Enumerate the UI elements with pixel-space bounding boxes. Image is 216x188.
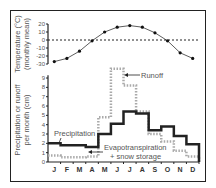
runoff-arrow-head <box>124 73 128 77</box>
temp-point <box>179 51 182 54</box>
temp-point <box>78 50 81 53</box>
precip-tick-label: 5 <box>42 112 46 118</box>
temp-point <box>103 30 106 33</box>
temp-point <box>90 39 93 42</box>
evapotranspiration-annotation: Evapotranspiration <box>104 143 167 152</box>
temp-axis-label-2: (monthly mean) <box>22 17 31 70</box>
month-label: D <box>190 166 195 173</box>
evapotranspiration-arrow-head <box>88 150 92 154</box>
runoff-annotation: Runoff <box>141 71 164 80</box>
precip-tick-label: 7 <box>42 94 46 100</box>
climate-runoff-chart: 20100-10-20-30 0123456789 JFMAMJJASOND T… <box>0 0 216 188</box>
month-label: N <box>178 166 183 173</box>
month-label: F <box>65 166 70 173</box>
temp-axis-label-1: Temperature (°C) <box>13 15 22 73</box>
precip-tick-label: 8 <box>42 84 46 90</box>
temp-point <box>153 31 156 34</box>
temp-point <box>166 39 169 42</box>
month-label: M <box>102 166 108 173</box>
month-label: J <box>128 166 132 173</box>
precip-tick-label: 6 <box>42 103 46 109</box>
temp-point <box>128 24 131 27</box>
month-label: M <box>77 166 83 173</box>
month-label: J <box>115 166 119 173</box>
precip-tick-label: 9 <box>42 75 46 81</box>
month-label: A <box>140 166 145 173</box>
precip-tick-label: 0 <box>42 159 46 165</box>
precipitation-axis: 0123456789 <box>42 75 48 165</box>
temp-point <box>191 57 194 60</box>
month-label: J <box>52 166 56 173</box>
month-label: A <box>90 166 95 173</box>
temp-tick-label: 20 <box>38 21 45 27</box>
temperature-axis: 20100-10-20-30 <box>36 21 48 67</box>
temp-tick-label: -20 <box>36 53 45 59</box>
precip-tick-label: 4 <box>42 122 46 128</box>
month-label: O <box>165 166 171 173</box>
temperature-series <box>53 24 195 63</box>
temp-tick-label: 0 <box>42 37 46 43</box>
temp-tick-label: -10 <box>36 45 45 51</box>
precip-tick-label: 3 <box>42 131 46 137</box>
temp-point <box>53 60 56 63</box>
precip-tick-label: 1 <box>42 150 46 156</box>
temp-tick-label: 10 <box>38 29 45 35</box>
precip-tick-label: 2 <box>42 140 46 146</box>
precipitation-annotation: Precipitation <box>54 129 95 138</box>
temp-point <box>116 26 119 29</box>
precip-axis-label-1: Precipitation or runoff <box>13 84 22 156</box>
snow-storage-annotation: + snow storage <box>110 152 161 161</box>
temp-point <box>141 26 144 29</box>
temp-point <box>65 57 68 60</box>
month-axis: JFMAMJJASOND <box>48 162 199 173</box>
month-label: S <box>153 166 158 173</box>
precip-axis-label-2: per month (cm) <box>22 94 31 145</box>
temp-tick-label: -30 <box>36 61 45 67</box>
